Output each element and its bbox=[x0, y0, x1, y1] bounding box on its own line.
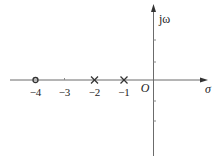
sigma-axis bbox=[10, 78, 208, 83]
jw-axis-arrow-icon bbox=[151, 4, 156, 12]
pole-zero-diagram: −4 −3 −2 −1 O σ jω bbox=[0, 0, 220, 158]
tick-label-minus-4: −4 bbox=[30, 86, 42, 98]
tick-label-minus-1: −1 bbox=[118, 86, 130, 98]
sigma-axis-label: σ bbox=[205, 82, 212, 96]
tick-label-minus-3: −3 bbox=[59, 86, 71, 98]
origin-label: O bbox=[141, 81, 150, 95]
tick-label-minus-2: −2 bbox=[89, 86, 101, 98]
jw-axis-label: jω bbox=[158, 12, 170, 26]
